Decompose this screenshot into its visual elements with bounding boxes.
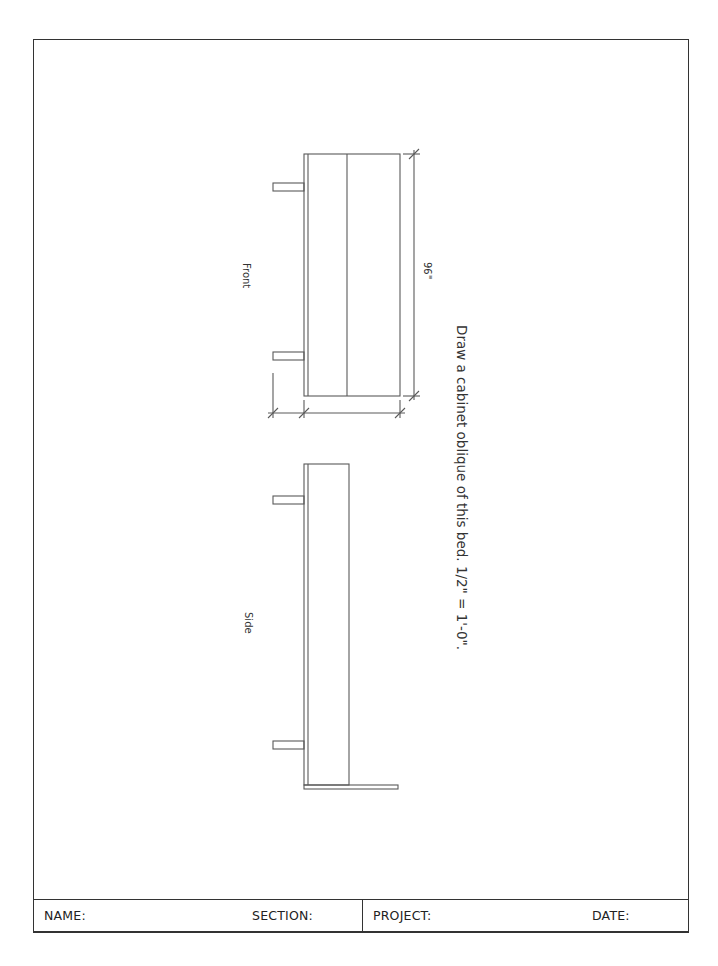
dimension-96-label: 96" bbox=[422, 262, 433, 279]
instruction-text: Draw a cabinet oblique of this bed. 1/2"… bbox=[454, 325, 470, 650]
side-base-rail bbox=[304, 785, 398, 789]
side-view bbox=[273, 464, 398, 789]
front-post-bottom bbox=[273, 352, 304, 360]
front-view bbox=[268, 149, 420, 418]
title-block-left: NAME: SECTION: bbox=[34, 900, 363, 932]
title-block: NAME: SECTION: PROJECT: DATE: bbox=[33, 899, 689, 933]
side-view-label: Side bbox=[243, 612, 254, 634]
side-post-top bbox=[273, 496, 304, 504]
name-label: NAME: bbox=[44, 908, 86, 923]
project-label: PROJECT: bbox=[373, 908, 431, 923]
front-post-top bbox=[273, 183, 304, 191]
section-label: SECTION: bbox=[252, 908, 313, 923]
date-label: DATE: bbox=[592, 908, 630, 923]
bed-orthographic-drawing bbox=[0, 0, 718, 966]
front-frame bbox=[304, 154, 400, 396]
side-frame bbox=[304, 464, 349, 785]
front-view-label: Front bbox=[241, 263, 252, 288]
title-block-right: PROJECT: DATE: bbox=[363, 900, 688, 932]
side-post-bottom bbox=[273, 741, 304, 749]
